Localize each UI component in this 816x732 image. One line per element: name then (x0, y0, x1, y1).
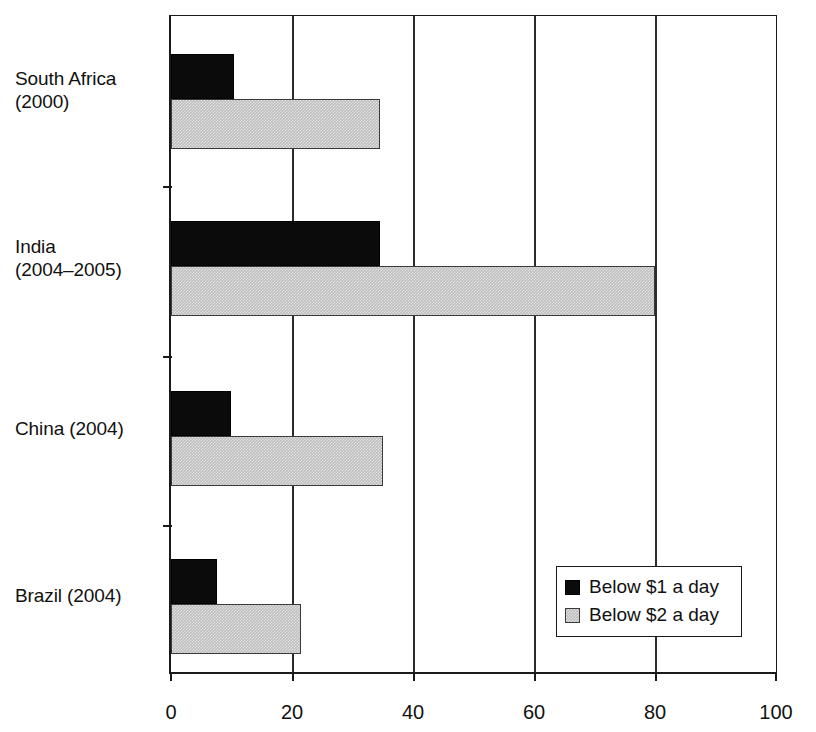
poverty-bar-chart: South Africa (2000) India (2004–2005) Ch… (0, 0, 816, 732)
category-axis-labels: South Africa (2000) India (2004–2005) Ch… (0, 0, 169, 732)
legend-item-below2: Below $2 a day (565, 601, 733, 629)
xtick-100 (775, 672, 777, 681)
legend-swatch-below1-icon (565, 580, 580, 595)
category-tick-3 (163, 525, 172, 527)
category-label-south-africa: South Africa (2000) (7, 67, 169, 113)
legend-label-below2: Below $2 a day (589, 604, 719, 626)
xtick-80 (655, 672, 657, 681)
category-tick-2 (163, 356, 172, 358)
bar-south-africa-below2 (171, 99, 380, 149)
xtick-label-80: 80 (620, 700, 690, 724)
legend-label-below1: Below $1 a day (589, 576, 719, 598)
xtick-label-60: 60 (499, 700, 569, 724)
legend: Below $1 a day Below $2 a day (556, 566, 742, 637)
xtick-label-100: 100 (741, 700, 811, 724)
xtick-label-40: 40 (378, 700, 448, 724)
category-label-china: China (2004) (7, 417, 169, 440)
xtick-20 (292, 672, 294, 681)
xtick-0 (170, 672, 172, 681)
category-label-brazil: Brazil (2004) (7, 584, 169, 607)
gridline-40 (413, 16, 415, 672)
xtick-60 (534, 672, 536, 681)
xtick-label-0: 0 (136, 700, 206, 724)
bar-china-below2 (171, 436, 383, 486)
category-label-india: India (2004–2005) (7, 235, 169, 281)
bar-china-below1 (171, 391, 231, 436)
bar-brazil-below1 (171, 559, 217, 604)
xtick-label-20: 20 (257, 700, 327, 724)
bar-india-below1 (171, 221, 380, 266)
category-tick-1 (163, 186, 172, 188)
legend-item-below1: Below $1 a day (565, 573, 733, 601)
bar-india-below2 (171, 266, 655, 316)
xtick-40 (413, 672, 415, 681)
legend-swatch-below2-icon (565, 608, 580, 623)
gridline-60 (534, 16, 536, 672)
bar-south-africa-below1 (171, 54, 234, 99)
bar-brazil-below2 (171, 604, 301, 654)
